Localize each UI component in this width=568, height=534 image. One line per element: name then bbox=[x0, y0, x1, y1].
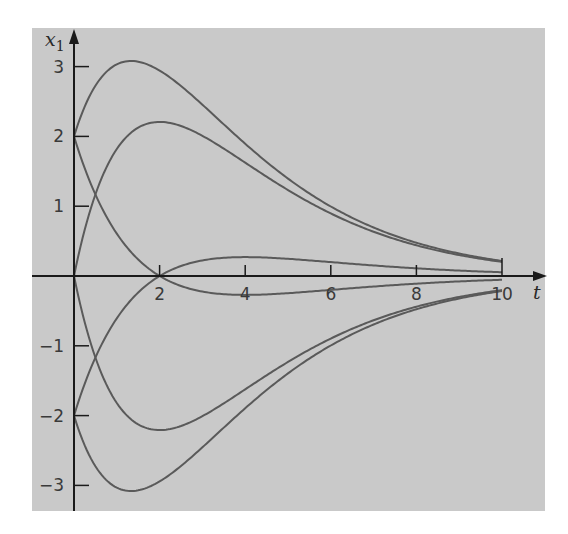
y-tick-label: 1 bbox=[53, 196, 64, 216]
x-tick-label: 4 bbox=[240, 284, 251, 304]
x-axis-label: t bbox=[533, 281, 541, 303]
x-tick-label: 8 bbox=[411, 284, 422, 304]
y-tick-label: −3 bbox=[39, 475, 64, 495]
y-tick-label: −1 bbox=[39, 336, 64, 356]
phase-trajectory-chart: 246810 321−1−2−3 t x1 bbox=[0, 0, 568, 534]
y-tick-label: 2 bbox=[53, 126, 64, 146]
plot-background bbox=[32, 28, 545, 511]
y-tick-label: −2 bbox=[39, 406, 64, 426]
x-tick-label: 2 bbox=[154, 284, 165, 304]
x-tick-label: 6 bbox=[325, 284, 336, 304]
y-tick-label: 3 bbox=[53, 57, 64, 77]
x-tick-label: 10 bbox=[491, 284, 513, 304]
